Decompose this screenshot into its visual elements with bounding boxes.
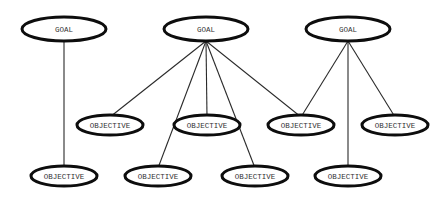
goal-node: GOAL bbox=[306, 17, 390, 41]
nodes: GOALGOALGOALOBJECTIVEOBJECTIVEOBJECTIVEO… bbox=[22, 17, 428, 186]
goal-node: GOAL bbox=[164, 17, 248, 41]
goal-objective-diagram: GOALGOALGOALOBJECTIVEOBJECTIVEOBJECTIVEO… bbox=[0, 0, 448, 201]
goal-label: GOAL bbox=[197, 26, 216, 34]
goal-label: GOAL bbox=[339, 26, 358, 34]
edge-goal_2-to-obj_4 bbox=[206, 41, 207, 117]
edge-goal_3-to-obj_7 bbox=[348, 41, 395, 117]
objective-node: OBJECTIVE bbox=[31, 166, 97, 186]
objective-node: OBJECTIVE bbox=[174, 115, 240, 135]
edges bbox=[64, 41, 395, 168]
objective-label: OBJECTIVE bbox=[44, 173, 85, 181]
objective-node: OBJECTIVE bbox=[362, 115, 428, 135]
objective-label: OBJECTIVE bbox=[138, 173, 179, 181]
objective-node: OBJECTIVE bbox=[77, 115, 143, 135]
objective-label: OBJECTIVE bbox=[375, 122, 416, 130]
goal-label: GOAL bbox=[55, 26, 74, 34]
objective-label: OBJECTIVE bbox=[187, 122, 228, 130]
edge-goal_3-to-obj_6 bbox=[301, 41, 348, 117]
objective-node: OBJECTIVE bbox=[125, 166, 191, 186]
objective-node: OBJECTIVE bbox=[222, 166, 288, 186]
objective-label: OBJECTIVE bbox=[90, 122, 131, 130]
objective-node: OBJECTIVE bbox=[315, 166, 381, 186]
goal-node: GOAL bbox=[22, 17, 106, 41]
objective-label: OBJECTIVE bbox=[281, 122, 322, 130]
objective-node: OBJECTIVE bbox=[268, 115, 334, 135]
objective-label: OBJECTIVE bbox=[328, 173, 369, 181]
objective-label: OBJECTIVE bbox=[235, 173, 276, 181]
